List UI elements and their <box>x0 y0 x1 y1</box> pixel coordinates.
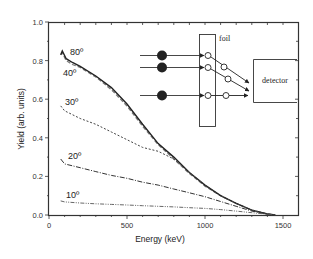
incident-particle-1 <box>157 51 167 61</box>
inset-schematic: foil detector <box>140 34 297 127</box>
emerged-particle-3 <box>205 93 211 99</box>
x-tick-1500: 1500 <box>275 221 292 230</box>
label-20deg: 20º <box>68 151 82 161</box>
label-10deg: 10º <box>66 190 80 200</box>
y-tick-0: 0.0 <box>33 211 43 220</box>
curve-40deg <box>61 53 276 215</box>
y-axis-title: Yield (arb. units) <box>16 88 26 150</box>
foil-label: foil <box>219 34 231 43</box>
incident-particle-2 <box>157 63 167 73</box>
x-tick-1000: 1000 <box>197 221 214 230</box>
y-tick-0.4: 0.4 <box>33 134 43 143</box>
plot-frame <box>49 23 299 216</box>
incident-particle-3 <box>157 91 167 101</box>
label-80deg: 80º <box>70 47 84 57</box>
x-tick-500: 500 <box>121 221 134 230</box>
emerged-particle-2 <box>205 65 211 71</box>
curve-80deg <box>61 51 276 215</box>
scattered-particle-2 <box>225 76 231 82</box>
chart-figure: 0 500 1000 1500 0.0 0.2 0.4 0.6 0.8 1.0 … <box>0 0 313 259</box>
y-tick-0.6: 0.6 <box>33 95 43 104</box>
label-40deg: 40º <box>63 68 77 78</box>
x-axis-title: Energy (keV) <box>135 234 185 244</box>
foil-rect <box>200 35 216 127</box>
label-30deg: 30º <box>65 97 79 107</box>
detector-label: detector <box>262 76 288 85</box>
y-tick-0.2: 0.2 <box>33 172 43 181</box>
y-tick-1.0: 1.0 <box>33 18 43 27</box>
y-tick-0.8: 0.8 <box>33 57 43 66</box>
x-tick-0: 0 <box>47 221 51 230</box>
scattered-particle-1 <box>221 64 227 70</box>
curve-30deg <box>61 106 276 215</box>
x-axis-ticks <box>49 22 283 219</box>
emerged-particle-1 <box>205 53 211 59</box>
scattered-particle-3 <box>223 93 229 99</box>
